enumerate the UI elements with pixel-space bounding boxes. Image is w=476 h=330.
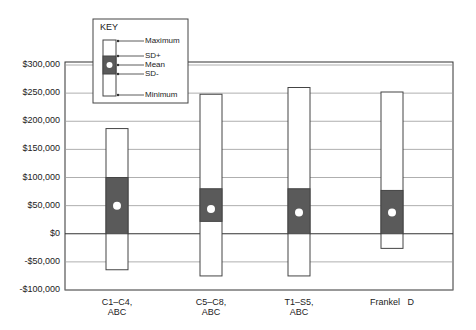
legend-entry-label: SD+ <box>145 51 161 60</box>
range-box <box>200 94 222 276</box>
y-tick-label: $0 <box>0 228 60 238</box>
x-category-label: C5–C8, ABC <box>176 297 246 317</box>
legend-pointer-dot <box>117 94 119 96</box>
legend-entry-label: Minimum <box>145 90 177 99</box>
legend-pointer-dot <box>117 64 119 66</box>
legend-entry-label: Mean <box>145 60 165 69</box>
y-tick-label: -$50,000 <box>0 256 60 266</box>
x-category-label: C1–C4, ABC <box>82 297 152 317</box>
legend-title: KEY <box>100 22 118 32</box>
y-tick-label: $50,000 <box>0 200 60 210</box>
legend-pointer-dot <box>117 40 119 42</box>
mean-marker <box>207 205 215 213</box>
legend-mean-swatch <box>107 62 113 68</box>
legend-pointer-dot <box>117 73 119 75</box>
chart-canvas <box>0 0 476 330</box>
x-category-label: T1–S5, ABC <box>264 297 334 317</box>
y-tick-label: $150,000 <box>0 143 60 153</box>
mean-marker <box>388 208 396 216</box>
legend-pointer-dot <box>117 55 119 57</box>
y-tick-label: $250,000 <box>0 87 60 97</box>
legend-entry-label: Maximum <box>145 36 180 45</box>
range-box <box>288 88 310 276</box>
y-tick-label: $300,000 <box>0 59 60 69</box>
legend-entry-label: SD- <box>145 69 159 78</box>
mean-marker <box>295 208 303 216</box>
y-tick-label: $200,000 <box>0 115 60 125</box>
x-category-label: Frankel D <box>357 297 427 307</box>
mean-marker <box>113 202 121 210</box>
y-tick-label: $100,000 <box>0 172 60 182</box>
y-tick-label: -$100,000 <box>0 284 60 294</box>
